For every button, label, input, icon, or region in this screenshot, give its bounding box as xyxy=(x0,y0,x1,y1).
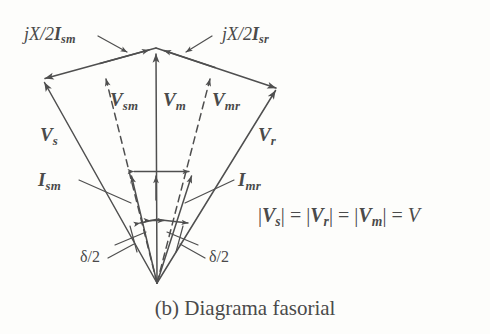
label-jx-ism: jX/2Ism xyxy=(24,25,76,46)
label-vmr: Vmr xyxy=(212,90,240,113)
leader-jx-isr xyxy=(186,36,212,52)
angle-tick-right-cross xyxy=(176,226,183,252)
label-imr: Imr xyxy=(238,170,261,193)
label-delta-right: δ/2 xyxy=(209,249,229,265)
phasor-vs-line xyxy=(45,83,158,284)
label-vm: Vm xyxy=(163,90,186,113)
phasor-diagram-canvas xyxy=(0,0,490,334)
leader-delta-right xyxy=(180,244,205,258)
phasor-jx-isr-apex-arrow xyxy=(164,51,215,68)
equation-magnitudes: |Vs| = |Vr| = |Vm| = V xyxy=(258,205,420,228)
label-vr: Vr xyxy=(258,125,276,148)
figure-caption: (b) Diagrama fasorial xyxy=(0,296,490,321)
angle-tick-left-cross xyxy=(130,226,137,252)
label-ism: Ism xyxy=(38,170,61,193)
phasor-jx-ism-apex-arrow xyxy=(100,50,149,64)
leader-imr xyxy=(185,180,234,203)
label-jx-isr: jX/2Isr xyxy=(222,25,269,46)
phasor-ism-line xyxy=(132,176,158,283)
label-vs: Vs xyxy=(40,125,58,148)
label-vsm: Vsm xyxy=(110,90,138,113)
phasor-diagram-figure: jX/2Ism jX/2Isr Vsm Vm Vmr Vs Vr Ism Imr… xyxy=(0,0,490,334)
phasor-vm-line xyxy=(156,54,157,283)
leader-delta-left xyxy=(108,244,134,258)
angle-tick-left-outer xyxy=(115,232,146,245)
label-delta-left: δ/2 xyxy=(80,249,100,265)
leader-ism xyxy=(79,180,131,203)
leader-jx-ism xyxy=(98,36,127,52)
phasor-imr-line xyxy=(157,176,192,283)
